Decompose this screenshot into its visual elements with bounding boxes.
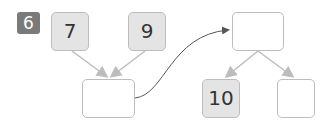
number-box-10: 10: [202, 79, 240, 118]
number-bond-exercise: 6 7 9 10: [0, 0, 334, 131]
sum-answer-box[interactable]: [82, 79, 135, 118]
question-number-badge: 6: [17, 12, 40, 34]
part-answer-box[interactable]: [277, 79, 315, 118]
number-box-9: 9: [128, 12, 166, 51]
whole-answer-box[interactable]: [232, 12, 284, 51]
number-box-7: 7: [51, 12, 89, 51]
